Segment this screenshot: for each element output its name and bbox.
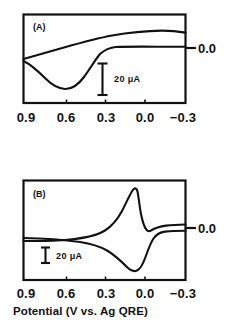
panel-b-x-tick-label-2: 0.3	[86, 286, 126, 301]
panel-b-tag: (B)	[33, 189, 46, 199]
panel-a-scale-bar	[98, 64, 108, 96]
panel-a-x-tick-label-4: −0.3	[161, 110, 205, 125]
cyclic-voltammetry-figure: (A) 0.0 20 μA 0.9 0.6 0.3 0.0 −0.3 (B) 0…	[0, 0, 233, 331]
panel-b-scale-bar	[41, 248, 50, 264]
panel-b-cathodic-trace	[24, 231, 186, 271]
panel-a-group	[24, 15, 197, 104]
panel-a-x-tick-label-3: 0.0	[125, 110, 165, 125]
panel-a-scale-bar-label: 20 μA	[114, 74, 141, 84]
panel-a-x-tick-label-1: 0.6	[46, 110, 86, 125]
panel-b-x-tick-label-4: −0.3	[161, 286, 205, 301]
panel-a-x-tick-label-0: 0.9	[6, 110, 46, 125]
x-axis-title: Potential (V vs. Ag QRE)	[13, 305, 148, 317]
panel-a-zero-label: 0.0	[198, 41, 216, 56]
panel-a-x-tick-label-2: 0.3	[86, 110, 126, 125]
panel-b-x-tick-label-0: 0.9	[6, 286, 46, 301]
panel-a-anodic-trace	[24, 31, 186, 59]
panel-a-tag: (A)	[33, 22, 46, 32]
panel-b-x-tick-label-1: 0.6	[46, 286, 86, 301]
panel-b-group	[24, 181, 197, 281]
panel-b-scale-bar-label: 20 μA	[56, 251, 83, 261]
panel-a-frame	[24, 15, 186, 104]
panel-b-x-tick-label-3: 0.0	[125, 286, 165, 301]
panel-b-zero-label: 0.0	[198, 221, 216, 236]
